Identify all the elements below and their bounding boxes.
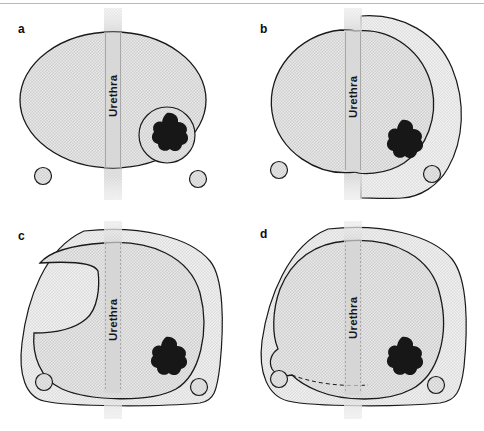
right-neurovascular-bundle xyxy=(424,166,441,183)
panel-c-diagram: Urethra xyxy=(0,215,242,431)
left-neurovascular-bundle xyxy=(271,162,288,179)
urethra-label-c: Urethra xyxy=(107,298,119,341)
panel-b-diagram: Urethra xyxy=(242,0,484,215)
right-neurovascular-bundle xyxy=(428,377,445,394)
urethra-label-b: Urethra xyxy=(347,75,359,118)
left-neurovascular-bundle xyxy=(271,371,288,388)
panel-b: Urethra b xyxy=(242,0,484,215)
panel-a: Urethra a xyxy=(0,0,242,215)
panel-a-diagram: Urethra xyxy=(0,0,242,215)
left-neurovascular-bundle xyxy=(36,374,53,391)
panel-label-d: d xyxy=(260,227,267,241)
left-neurovascular-bundle xyxy=(35,168,52,185)
panel-label-a: a xyxy=(18,22,25,36)
right-neurovascular-bundle xyxy=(190,171,207,188)
panel-c: Urethra c xyxy=(0,215,242,430)
urethra-label-a: Urethra xyxy=(107,74,119,117)
panel-label-c: c xyxy=(18,229,25,243)
panel-d-diagram: Urethra xyxy=(242,215,484,431)
urethra-label-d: Urethra xyxy=(347,296,359,339)
figure-container: Urethra a xyxy=(0,0,484,431)
panel-d: Urethra d xyxy=(242,215,484,430)
panel-label-b: b xyxy=(260,22,267,36)
right-neurovascular-bundle xyxy=(191,379,208,396)
